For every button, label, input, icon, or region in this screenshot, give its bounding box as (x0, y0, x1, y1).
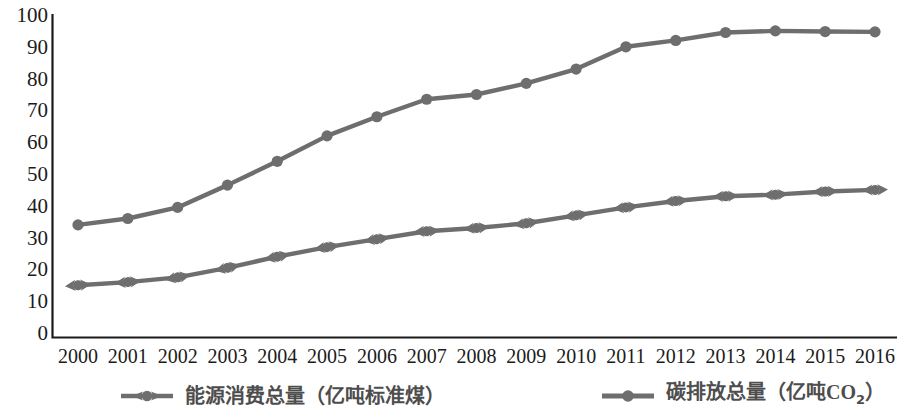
x-tick-label: 2001 (100, 344, 156, 368)
x-tick-label: 2011 (598, 344, 654, 368)
x-tick-label: 2010 (548, 344, 604, 368)
data-point-marker (862, 184, 888, 196)
x-tick-label: 2014 (747, 344, 803, 368)
data-point-marker (820, 26, 831, 37)
data-point-marker (670, 35, 681, 46)
x-tick-label: 2006 (349, 344, 405, 368)
x-tick-label: 2008 (449, 344, 505, 368)
data-point-marker (463, 221, 490, 235)
legend-marker-energy-icon (118, 385, 176, 407)
legend-label-energy: 能源消费总量（亿吨标准煤） (185, 385, 445, 407)
data-point-marker (114, 275, 141, 289)
data-point-marker (172, 202, 183, 213)
chart-container: 100 90 80 70 60 50 40 30 20 10 0 2000200… (0, 0, 898, 413)
x-axis-tick-labels: 2000200120022003200420052006200720082009… (0, 344, 898, 374)
x-tick-label: 2005 (299, 344, 355, 368)
data-point-marker (313, 240, 340, 255)
data-point-marker (272, 156, 283, 167)
data-point-marker (72, 219, 83, 230)
data-point-marker (65, 279, 92, 292)
x-tick-label: 2012 (648, 344, 704, 368)
legend-label-carbon-prefix: 碳排放总量（亿吨 (666, 380, 826, 404)
data-point-marker (413, 225, 440, 238)
data-point-marker (762, 188, 789, 201)
data-point-marker (421, 94, 432, 105)
axis-frame (53, 14, 898, 338)
series-carbon-emissions (72, 25, 880, 230)
x-tick-label: 2000 (50, 344, 106, 368)
data-point-marker (371, 111, 382, 122)
data-point-marker (571, 63, 582, 74)
x-tick-label: 2013 (698, 344, 754, 368)
legend-label-carbon-latin: CO (826, 381, 856, 403)
data-point-marker (363, 232, 390, 247)
legend-item-energy: 能源消费总量（亿吨标准煤） (118, 385, 445, 407)
data-point-marker (812, 185, 838, 197)
data-point-marker (770, 25, 781, 36)
legend-item-carbon: 碳排放总量（亿吨CO2） (599, 381, 885, 411)
series-energy-consumption (65, 184, 889, 292)
x-tick-label: 2002 (150, 344, 206, 368)
data-point-marker (263, 249, 291, 265)
data-point-marker (662, 194, 689, 208)
data-point-marker (720, 27, 731, 38)
data-point-marker (620, 41, 631, 52)
series-line (78, 190, 875, 285)
x-tick-label: 2009 (498, 344, 554, 368)
legend-label-carbon-subscript: 2 (856, 392, 865, 407)
data-point-marker (222, 180, 233, 191)
data-point-marker (471, 89, 482, 100)
x-tick-label: 2004 (249, 344, 305, 368)
x-tick-label: 2007 (399, 344, 455, 368)
data-point-marker (712, 190, 738, 202)
x-tick-label: 2016 (847, 344, 898, 368)
data-point-marker (521, 78, 532, 89)
x-tick-label: 2003 (199, 344, 255, 368)
legend-label-carbon-suffix: ） (865, 380, 885, 404)
chart-legend: 能源消费总量（亿吨标准煤） 碳排放总量（亿吨CO2） (0, 378, 898, 413)
data-point-marker (122, 213, 133, 224)
data-point-marker (164, 269, 192, 285)
legend-label-carbon: 碳排放总量（亿吨CO2） (666, 381, 885, 411)
data-point-marker (562, 208, 589, 223)
data-point-marker (612, 200, 639, 214)
data-point-marker (321, 130, 332, 141)
x-tick-label: 2015 (797, 344, 853, 368)
data-point-marker (513, 216, 540, 231)
data-point-marker (869, 26, 880, 37)
legend-marker-carbon-icon (599, 385, 657, 407)
